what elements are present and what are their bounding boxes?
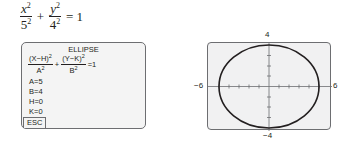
- plus-operator: +: [55, 60, 59, 69]
- variable-k[interactable]: K=0: [29, 107, 43, 117]
- variable-a[interactable]: A=5: [29, 77, 43, 87]
- exponent: 2: [82, 53, 85, 59]
- x-max-label: 6: [333, 81, 337, 90]
- exponent: 2: [27, 17, 31, 26]
- ellipse-plot: [208, 43, 332, 131]
- numerator: (X−H): [29, 54, 49, 63]
- formula-term-x: (X−H)2 A2: [28, 54, 53, 74]
- x-min-label: −6: [194, 81, 203, 90]
- graph-window: [207, 42, 331, 130]
- equation-term-x: x2 52: [20, 2, 32, 31]
- exponent: 2: [56, 17, 60, 26]
- equation-term-y: y2 42: [49, 2, 61, 31]
- variable-b[interactable]: B=4: [29, 87, 43, 97]
- plus-operator: +: [37, 9, 44, 25]
- formula-term-y: (Y−K)2 B2: [61, 54, 85, 74]
- exponent: 2: [41, 65, 44, 71]
- equals-one: =1: [88, 60, 97, 69]
- exponent: 2: [27, 1, 31, 10]
- exponent: 2: [56, 1, 60, 10]
- calculator-screen: ELLIPSE (X−H)2 A2 + (Y−K)2 B2 =1 A=5 B=4…: [21, 42, 146, 129]
- variable-h[interactable]: H=0: [29, 97, 43, 107]
- numerator: (Y−K): [62, 54, 81, 63]
- esc-button[interactable]: ESC: [23, 117, 46, 128]
- exponent: 2: [74, 65, 77, 71]
- y-max-label: 4: [265, 30, 269, 39]
- y-min-label: −4: [263, 131, 272, 140]
- ellipse-equation: x2 52 + y2 42 = 1: [20, 2, 88, 31]
- ellipse-formula: (X−H)2 A2 + (Y−K)2 B2 =1: [28, 54, 98, 74]
- equals-one: = 1: [66, 9, 83, 25]
- variable-list: A=5 B=4 H=0 K=0: [29, 77, 43, 117]
- exponent: 2: [49, 53, 52, 59]
